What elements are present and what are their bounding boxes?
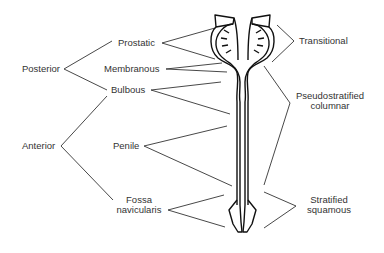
- urethra-diagram: Posterior Anterior Prostatic Membranous …: [0, 0, 384, 253]
- stratified-connector-lines: [264, 192, 296, 228]
- label-pseudostratified-columnar: Pseudostratified columnar: [292, 91, 368, 111]
- label-pseudostratified-line2: columnar: [292, 101, 368, 111]
- label-stratified-squamous: Stratified squamous: [301, 195, 357, 215]
- pseudostratified-connector-lines: [264, 66, 290, 185]
- fossa-navicularis-connector-lines: [168, 195, 225, 227]
- label-stratified-line2: squamous: [301, 205, 357, 215]
- anterior-connector-lines: [61, 96, 113, 200]
- urethra-outline: [211, 15, 274, 232]
- label-anterior: Anterior: [22, 141, 55, 151]
- penile-connector-lines: [144, 126, 232, 186]
- label-penile: Penile: [113, 141, 139, 151]
- label-prostatic: Prostatic: [118, 38, 155, 48]
- label-posterior: Posterior: [22, 64, 60, 74]
- transitional-connector-lines: [272, 25, 294, 62]
- prostate-glands: [221, 30, 264, 53]
- label-fossa-line2: navicularis: [113, 205, 165, 215]
- prostatic-connector-lines: [162, 28, 215, 59]
- bulbous-connector-lines: [151, 82, 230, 114]
- label-transitional: Transitional: [299, 36, 348, 46]
- label-bulbous: Bulbous: [111, 85, 145, 95]
- label-fossa-navicularis: Fossa navicularis: [113, 195, 165, 215]
- label-membranous: Membranous: [104, 64, 159, 74]
- membranous-connector-lines: [166, 63, 227, 72]
